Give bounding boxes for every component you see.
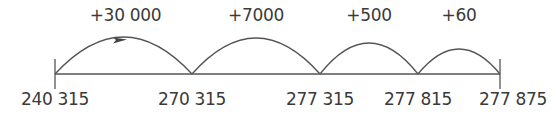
point-label: 240 315 xyxy=(21,89,89,109)
point-label: 270 315 xyxy=(158,89,226,109)
point-label: 277 815 xyxy=(384,89,452,109)
jump-arc xyxy=(192,38,320,74)
jump-arc xyxy=(418,49,500,74)
point-label: 277 875 xyxy=(479,89,547,109)
arrow-head-icon xyxy=(113,38,127,44)
jump-label: +500 xyxy=(346,5,392,25)
jump-arc xyxy=(320,43,418,74)
jump-arc xyxy=(55,37,192,74)
jump-label: +30 000 xyxy=(90,5,162,25)
jump-arcs xyxy=(55,37,500,74)
jump-label: +60 xyxy=(442,5,477,25)
point-label: 277 315 xyxy=(286,89,354,109)
jump-label: +7000 xyxy=(228,5,284,25)
